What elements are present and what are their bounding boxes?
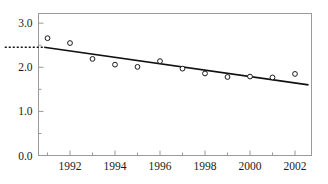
x-tick-label: 2000 (239, 160, 262, 172)
y-tick-label: 0.0 (18, 150, 33, 162)
y-tick-label: 1.0 (18, 105, 33, 117)
data-point-marker (270, 75, 275, 80)
scatter-plot-with-trend-line: 0.01.02.03.0 199219941996199820002002 (0, 0, 328, 184)
data-point-marker (225, 75, 230, 80)
y-tick-label: 2.0 (18, 61, 33, 73)
chart-container: 0.01.02.03.0 199219941996199820002002 (0, 0, 328, 184)
data-point-marker (135, 64, 140, 69)
x-tick-label: 1996 (149, 160, 172, 172)
x-tick-label: 2002 (284, 160, 307, 172)
data-point-marker (248, 74, 253, 79)
data-point-marker (158, 59, 163, 64)
data-point-marker (203, 71, 208, 76)
data-point-marker (113, 62, 118, 67)
y-tick-label: 3.0 (18, 17, 33, 29)
data-point-marker (45, 36, 50, 41)
x-tick-label: 1992 (59, 160, 82, 172)
x-tick-label: 1998 (194, 160, 217, 172)
data-point-marker (180, 66, 185, 71)
data-point-marker (293, 72, 298, 77)
data-point-marker (68, 41, 73, 46)
x-tick-label: 1994 (104, 160, 127, 172)
data-point-marker (90, 57, 95, 62)
plot-background (0, 0, 328, 184)
